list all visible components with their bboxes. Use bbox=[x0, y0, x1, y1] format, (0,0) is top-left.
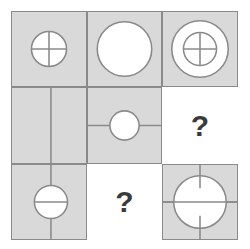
matrix-reasoning-puzzle: ? ? bbox=[0, 0, 250, 249]
matrix-cell-r3c3[interactable] bbox=[162, 164, 238, 240]
matrix-cell-r2c3-missing[interactable]: ? bbox=[162, 87, 238, 164]
small-crosshair-circle-icon bbox=[12, 12, 86, 86]
large-circle-crosshair-ticks-icon bbox=[163, 165, 237, 239]
matrix-cell-r1c2[interactable] bbox=[87, 11, 162, 87]
matrix-grid: ? ? bbox=[11, 11, 238, 240]
matrix-cell-r2c2[interactable] bbox=[87, 87, 162, 164]
vertical-line-bisected-circle-icon bbox=[12, 165, 86, 239]
matrix-cell-r2c1[interactable] bbox=[11, 87, 87, 164]
matrix-cell-r1c1[interactable] bbox=[11, 11, 87, 87]
question-mark-right: ? bbox=[162, 87, 238, 164]
matrix-cell-r3c2-missing[interactable]: ? bbox=[87, 164, 162, 240]
question-mark-bottom: ? bbox=[87, 164, 162, 240]
nested-crosshair-circle-icon bbox=[163, 12, 237, 86]
large-plain-circle-icon bbox=[88, 12, 161, 86]
matrix-cell-r1c3[interactable] bbox=[162, 11, 238, 87]
matrix-cell-r3c1[interactable] bbox=[11, 164, 87, 240]
circle-with-horizontal-line-icon bbox=[88, 88, 161, 163]
vertical-line-icon bbox=[12, 88, 86, 163]
